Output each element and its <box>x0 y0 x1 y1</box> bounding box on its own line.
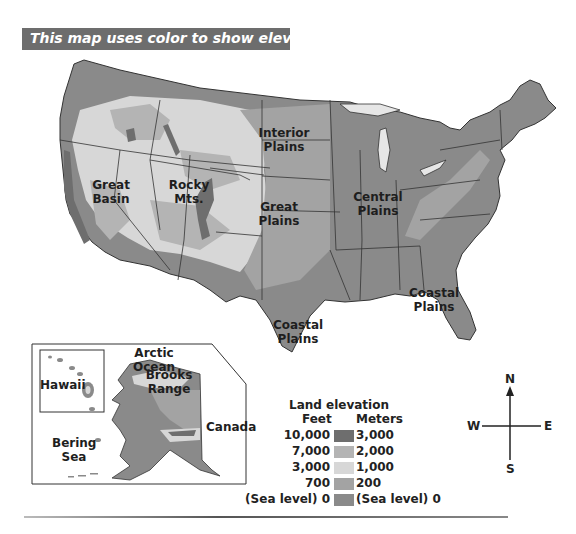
legend-meters: (Sea level) 0 <box>356 492 441 506</box>
legend-row: 700 200 <box>254 476 434 492</box>
legend-row: 3,000 1,000 <box>254 460 434 476</box>
bottom-divider <box>24 516 508 518</box>
label-great-plains: Great Plains <box>254 200 304 228</box>
legend-meters: 200 <box>356 476 381 490</box>
legend-feet-header: Feet <box>302 412 332 426</box>
compass-north-arrow <box>506 386 514 396</box>
label-central-plains: Central Plains <box>350 190 406 218</box>
compass-s: S <box>506 462 515 476</box>
legend-meters-header: Meters <box>356 412 403 426</box>
legend-feet: 700 <box>305 476 330 490</box>
label-canada: Canada <box>206 420 250 434</box>
legend-swatch-2000m <box>334 446 354 458</box>
legend-meters: 1,000 <box>356 460 394 474</box>
compass-e: E <box>544 419 552 433</box>
label-interior-plains: Interior Plains <box>254 126 314 154</box>
legend-swatch-1000m <box>334 462 354 474</box>
label-bering-sea: Bering Sea <box>52 436 96 464</box>
label-coastal-plains-east: Coastal Plains <box>406 286 462 314</box>
label-hawaii: Hawaii <box>40 378 84 392</box>
legend-swatch-3000m <box>334 430 354 442</box>
legend-swatch-sea-level <box>334 494 354 506</box>
legend-swatch-200m <box>334 478 354 490</box>
label-brooks-range: Brooks Range <box>144 368 194 396</box>
label-coastal-plains-south: Coastal Plains <box>270 318 326 346</box>
label-rocky-mts: Rocky Mts. <box>164 178 214 206</box>
legend-row: 10,000 3,000 <box>254 428 434 444</box>
legend-row: (Sea level) 0 (Sea level) 0 <box>254 492 454 508</box>
legend-feet: 7,000 <box>292 444 330 458</box>
compass-w: W <box>467 419 480 433</box>
compass-rose <box>482 393 541 460</box>
legend-meters: 3,000 <box>356 428 394 442</box>
legend-meters: 2,000 <box>356 444 394 458</box>
legend-feet: 10,000 <box>284 428 330 442</box>
legend-feet: (Sea level) 0 <box>245 492 330 506</box>
compass-n: N <box>505 372 515 386</box>
legend-row: 7,000 2,000 <box>254 444 434 460</box>
label-great-basin: Great Basin <box>86 178 136 206</box>
legend-title: Land elevation <box>284 398 394 412</box>
legend-feet: 3,000 <box>292 460 330 474</box>
